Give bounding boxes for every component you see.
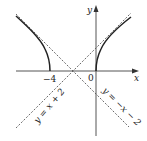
hyperbola-diagram: y x 0 −4 y = x + 2 y = −x − 2 [0, 0, 147, 141]
x-axis-label: x [134, 73, 139, 83]
asymptote-label-y-equals-neg-x-minus-2: y = −x − 2 [100, 85, 143, 128]
asymptote-label-y-equals-x-plus-2: y = x + 2 [31, 86, 67, 126]
tick-label-neg-4: −4 [43, 74, 57, 84]
y-axis-arrow-icon [94, 5, 99, 12]
hyperbola-left-branch [16, 16, 50, 71]
hyperbola-right-branch [96, 17, 131, 71]
origin-label: 0 [88, 73, 94, 83]
y-axis-label: y [86, 5, 93, 15]
